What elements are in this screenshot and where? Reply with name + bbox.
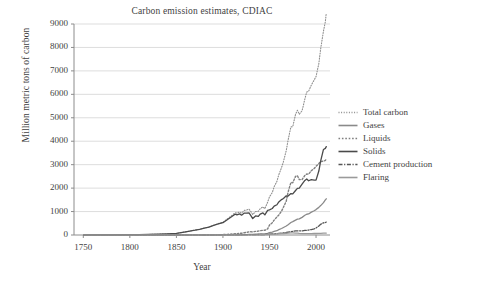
y-tick-label: 8000 — [32, 41, 68, 51]
series-line-solids — [84, 147, 326, 235]
x-tick-label: 1950 — [249, 242, 289, 252]
y-tick-label: 6000 — [32, 88, 68, 98]
legend-item-solids[interactable]: Solids — [338, 145, 432, 158]
legend-item-gases[interactable]: Gases — [338, 119, 432, 132]
legend-item-total-carbon[interactable]: Total carbon — [338, 106, 432, 119]
x-tick-label: 1850 — [156, 242, 196, 252]
legend-swatch-icon — [338, 133, 358, 144]
y-tick-label: 9000 — [32, 18, 68, 28]
x-tick-label: 1800 — [110, 242, 150, 252]
legend-label: Total carbon — [363, 107, 408, 118]
y-tick-label: 0 — [32, 229, 68, 239]
legend: Total carbonGasesLiquidsSolidsCement pro… — [338, 106, 432, 184]
legend-item-cement-production[interactable]: Cement production — [338, 158, 432, 171]
x-tick-label: 1750 — [63, 242, 103, 252]
legend-swatch-icon — [338, 120, 358, 131]
legend-swatch-icon — [338, 159, 358, 170]
legend-label: Gases — [363, 120, 385, 131]
legend-swatch-icon — [338, 172, 358, 183]
y-tick-label: 5000 — [32, 112, 68, 122]
y-tick-label: 3000 — [32, 159, 68, 169]
legend-label: Solids — [363, 146, 386, 157]
legend-label: Liquids — [363, 133, 391, 144]
legend-swatch-icon — [338, 107, 358, 118]
y-tick-label: 2000 — [32, 182, 68, 192]
legend-swatch-icon — [338, 146, 358, 157]
legend-label: Cement production — [363, 159, 432, 170]
x-tick-label: 1900 — [203, 242, 243, 252]
x-tick-label: 2000 — [296, 242, 336, 252]
chart-page: Carbon emission estimates, CDIAC Million… — [0, 0, 484, 287]
y-tick-label: 1000 — [32, 206, 68, 216]
y-tick-label: 7000 — [32, 65, 68, 75]
legend-item-liquids[interactable]: Liquids — [338, 132, 432, 145]
y-tick-label: 4000 — [32, 135, 68, 145]
legend-item-flaring[interactable]: Flaring — [338, 171, 432, 184]
legend-label: Flaring — [363, 172, 389, 183]
series-line-gases — [84, 199, 326, 235]
series-line-total-carbon — [84, 13, 326, 235]
x-axis-title: Year — [74, 262, 330, 272]
